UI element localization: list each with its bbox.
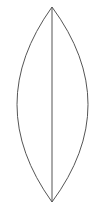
lens-right-arc (52, 7, 88, 202)
lens-left-arc (17, 7, 52, 202)
lens-diagram (0, 0, 92, 207)
diagram-canvas (0, 0, 92, 207)
